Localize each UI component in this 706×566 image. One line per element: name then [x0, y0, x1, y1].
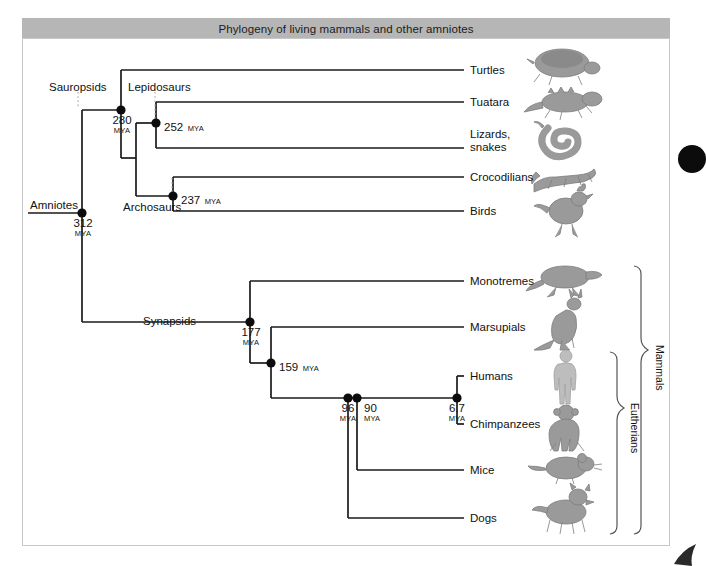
bracket-label-mammals: Mammals	[654, 345, 666, 391]
mouse-silhouette	[528, 454, 602, 485]
clade-label-amniotes: Amniotes	[30, 199, 78, 211]
kangaroo-silhouette	[534, 289, 582, 350]
age-label-lepidosaurs: 252 MYA	[164, 117, 204, 135]
tip-label-snakes: snakes	[470, 141, 506, 154]
tip-label-tuatara: Tuatara	[470, 96, 509, 109]
age-label-boreoeutheria: 90 MYA	[364, 403, 398, 424]
age-label-sauropsids: 280 MYA	[105, 115, 139, 136]
age-unit-hominin: MYA	[440, 414, 474, 425]
age-label-theria: 159 MYA	[279, 357, 319, 375]
age-value-archosaurs: 237	[181, 194, 200, 206]
age-value-synapsids: 177	[234, 327, 268, 338]
human-silhouette	[554, 350, 576, 404]
crocodile-silhouette	[532, 169, 596, 192]
tip-label-humans: Humans	[470, 370, 513, 383]
tip-label-chimpanzees: Chimpanzees	[470, 418, 540, 431]
bracket-label-eutherians: Eutherians	[629, 403, 641, 453]
bird-silhouette	[534, 184, 593, 237]
tip-label-dogs: Dogs	[470, 512, 497, 525]
clade-label-sauropsids: Sauropsids	[49, 81, 107, 93]
turtle-silhouette	[527, 49, 600, 85]
age-label-hominin: 6.7 MYA	[440, 403, 474, 424]
bracket-eutherians	[610, 352, 624, 534]
dog-silhouette	[532, 483, 594, 534]
edge-dot-decoration	[678, 145, 706, 173]
age-value-sauropsids: 280	[105, 115, 139, 126]
platypus-silhouette	[526, 266, 602, 297]
node-dot-theria	[266, 358, 275, 367]
node-dots	[77, 105, 461, 402]
age-unit-lepidosaurs: MYA	[188, 124, 204, 133]
age-value-eutheria: 96	[331, 403, 365, 414]
age-label-archosaurs: 237 MYA	[181, 190, 221, 208]
age-label-eutheria: 96 MYA	[331, 403, 365, 424]
silhouette-group	[524, 49, 602, 534]
clade-label-archosaurs: Archosaurs	[123, 201, 181, 213]
age-value-boreoeutheria: 90	[364, 403, 398, 414]
chimpanzee-silhouette	[549, 405, 584, 451]
tip-label-marsupials: Marsupials	[470, 321, 526, 334]
age-value-lepidosaurs: 252	[164, 121, 183, 133]
bracket-mammals	[634, 266, 648, 534]
page-curl-decoration	[672, 540, 698, 566]
node-dot-lepidosaurs	[151, 118, 160, 127]
age-unit-amniotes: MYA	[66, 229, 100, 240]
tip-label-monotremes: Monotremes	[470, 275, 534, 288]
age-value-amniotes: 312	[66, 218, 100, 229]
tip-label-lizards: Lizards,	[470, 128, 510, 141]
age-value-hominin: 6.7	[440, 403, 474, 414]
age-unit-eutheria: MYA	[331, 414, 365, 425]
tip-label-birds: Birds	[470, 205, 496, 218]
age-unit-theria: MYA	[303, 364, 319, 373]
tip-label-crocodilians: Crocodilians	[470, 171, 533, 184]
age-unit-synapsids: MYA	[234, 338, 268, 349]
clade-label-synapsids: Synapsids	[143, 315, 196, 327]
age-unit-archosaurs: MYA	[205, 197, 221, 206]
clade-brackets	[610, 266, 648, 534]
age-unit-sauropsids: MYA	[105, 126, 139, 137]
age-label-synapsids: 177 MYA	[234, 327, 268, 348]
age-label-amniotes: 312 MYA	[66, 218, 100, 239]
age-unit-boreoeutheria: MYA	[364, 414, 398, 425]
snake-silhouette	[534, 122, 578, 157]
node-dot-archosaurs	[168, 191, 177, 200]
tip-label-turtles: Turtles	[470, 64, 505, 77]
tip-label-mice: Mice	[470, 464, 494, 477]
clade-label-lepidosaurs: Lepidosaurs	[128, 81, 191, 93]
age-value-theria: 159	[279, 361, 298, 373]
tuatara-silhouette	[524, 87, 602, 120]
